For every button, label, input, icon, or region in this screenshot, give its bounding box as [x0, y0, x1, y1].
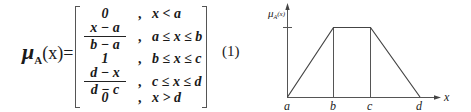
y-axis-arrow-icon [285, 3, 289, 10]
x-tick-a: a [284, 99, 290, 112]
x-axis-arrow-icon [434, 95, 441, 99]
trapezoid-membership-chart: μA(x) x a b c d [0, 0, 471, 112]
x-axis-label: x [443, 90, 450, 104]
x-tick-c: c [367, 99, 373, 112]
x-tick-b: b [330, 99, 336, 112]
y-axis-label: μA(x) [267, 7, 286, 20]
x-tick-d: d [416, 99, 423, 112]
trapezoid-curve [288, 28, 421, 98]
